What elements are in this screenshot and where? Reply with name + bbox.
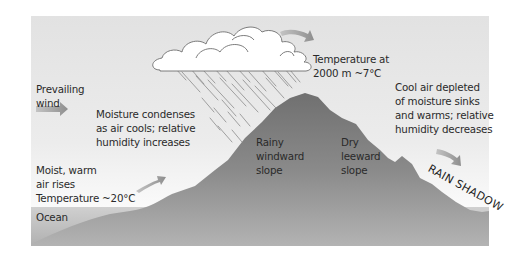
- label-prevailing-wind: Prevailing wind: [36, 82, 84, 110]
- label-moisture-condenses: Moisture condenses as air cools; relativ…: [96, 107, 195, 149]
- label-temperature-at-altitude: Temperature at 2000 m ~7°C: [313, 52, 389, 80]
- label-moist-warm-air: Moist, warm air rises Temperature ~20°C: [36, 163, 135, 205]
- label-dry-leeward-slope: Dry leeward slope: [341, 135, 380, 177]
- label-cool-air-sinks: Cool air depleted of moisture sinks and …: [395, 80, 494, 136]
- rain-shadow-diagram: Prevailing wind Moisture condenses as ai…: [0, 0, 516, 261]
- label-ocean: Ocean: [36, 210, 68, 224]
- label-rainy-windward-slope: Rainy windward slope: [256, 135, 304, 177]
